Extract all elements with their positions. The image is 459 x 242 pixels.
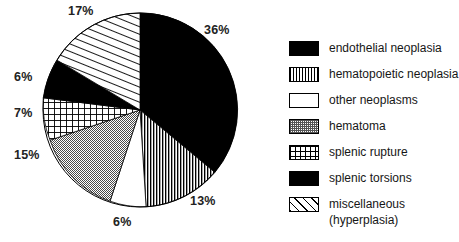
legend-item-splenic-torsions: splenic torsions	[289, 170, 459, 196]
chart-legend: endothelial neoplasia hematopoietic neop…	[289, 40, 459, 230]
legend-swatch-vertical-stripes-icon	[289, 67, 319, 82]
slice-label-endothelial-neoplasia: 36%	[204, 24, 230, 37]
legend-swatch-fine-dots-icon	[289, 119, 319, 134]
slice-label-other-neoplasms: 6%	[113, 216, 131, 229]
slice-label-hematoma: 15%	[14, 149, 40, 162]
legend-item-hematoma: hematoma	[289, 118, 459, 144]
legend-item-other-neoplasms: other neoplasms	[289, 92, 459, 118]
legend-label-other-neoplasms: other neoplasms	[329, 92, 418, 108]
slice-label-hematopoietic-neoplasia: 13%	[190, 195, 216, 208]
legend-item-splenic-rupture: splenic rupture	[289, 144, 459, 170]
legend-label-endothelial-neoplasia: endothelial neoplasia	[329, 40, 442, 56]
legend-label-splenic-torsions: splenic torsions	[329, 170, 412, 186]
legend-item-hematopoietic-neoplasia: hematopoietic neoplasia	[289, 66, 459, 92]
legend-swatch-diagonal-lines-icon	[289, 197, 319, 212]
pie-chart-figure: 36% 13% 6% 15% 7% 6% 17% endothelial neo…	[0, 0, 459, 242]
pie-chart	[0, 0, 280, 242]
legend-item-endothelial-neoplasia: endothelial neoplasia	[289, 40, 459, 66]
legend-item-miscellaneous: miscellaneous (hyperplasia)	[289, 196, 459, 230]
legend-swatch-white-icon	[289, 93, 319, 108]
legend-label-miscellaneous: miscellaneous (hyperplasia)	[329, 196, 405, 228]
legend-label-hematoma: hematoma	[329, 118, 386, 134]
legend-swatch-solid-black-2-icon	[289, 171, 319, 186]
legend-label-hematopoietic-neoplasia: hematopoietic neoplasia	[329, 66, 458, 82]
legend-swatch-solid-black-icon	[289, 41, 319, 56]
legend-swatch-grid-icon	[289, 145, 319, 160]
slice-label-splenic-torsions: 6%	[14, 71, 32, 84]
slice-label-miscellaneous: 17%	[68, 5, 94, 18]
slice-label-splenic-rupture: 7%	[14, 107, 32, 120]
legend-label-splenic-rupture: splenic rupture	[329, 144, 408, 160]
